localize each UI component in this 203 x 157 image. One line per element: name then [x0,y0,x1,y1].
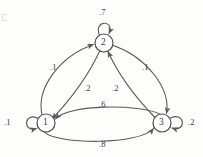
edge-weight-2-3: .1 [142,63,149,72]
edge-weight-2-1: .2 [84,84,91,93]
edge-weight-1-2: .1 [50,63,57,72]
diagram-canvas: 1 2 3 .7 .1 .2 .1 .2 .2 .1 .6 .8 [0,0,203,157]
edge-weight-3-1: .6 [99,100,106,109]
node-label-3: 3 [159,118,164,128]
edge-2-to-2 [98,23,110,35]
node-label-1: 1 [43,118,48,128]
edge-weight-1-1: .1 [4,118,11,127]
node-label-2: 2 [101,38,106,48]
edge-1-to-2 [41,45,93,115]
edge-weight-3-3: .2 [188,118,195,127]
edge-2-to-3 [114,46,168,114]
edge-3-to-1 [56,107,161,119]
edge-weight-2-2: .7 [99,8,106,17]
edge-weight-3-2: .2 [112,84,119,93]
edge-2-to-1 [52,52,100,120]
edge-3-to-3 [171,117,183,129]
graph-svg [0,0,203,157]
edge-weight-1-3: .8 [99,140,106,149]
